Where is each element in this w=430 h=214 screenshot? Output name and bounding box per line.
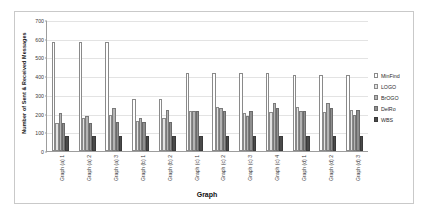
x-tick-label-text: Graph (c) 3 xyxy=(247,155,253,181)
bar-wbs xyxy=(65,136,68,151)
legend-swatch-brogo xyxy=(374,95,378,99)
x-tick-label: Graph (b) 1 xyxy=(126,154,153,194)
legend-swatch-wbs xyxy=(374,117,378,121)
bar-wbs xyxy=(199,136,202,151)
y-tick-label: 100 xyxy=(35,130,47,136)
x-tick-label: Graph (a) 2 xyxy=(73,154,100,194)
bar-group xyxy=(315,21,342,151)
legend-item: BrOGO xyxy=(374,92,428,103)
bar-group xyxy=(154,21,181,151)
bar-wbs xyxy=(253,136,256,151)
x-tick-label: Graph (c) 2 xyxy=(207,154,234,194)
chart-figure: Number of Sent & Received Messages 01002… xyxy=(0,0,430,214)
x-axis-tick-labels: Graph (a) 1Graph (a) 2Graph (a) 3Graph (… xyxy=(46,154,368,194)
x-tick-label-text: Graph (b) 2 xyxy=(167,155,173,181)
legend-label: WBS xyxy=(381,117,393,123)
bar-groups xyxy=(47,21,368,151)
x-tick-label: Graph (c) 1 xyxy=(180,154,207,194)
bar-group xyxy=(341,21,368,151)
y-axis-title: Number of Sent & Received Messages xyxy=(18,14,30,152)
bar-group xyxy=(127,21,154,151)
plot-area: 0100200300400500600700 xyxy=(46,21,368,152)
legend-label: MinFind xyxy=(381,73,400,79)
chart-legend: MinFindLOGOBrOGODelRoWBS xyxy=(374,70,428,125)
bar-wbs xyxy=(92,136,95,151)
x-tick-label: Graph (c) 4 xyxy=(261,154,288,194)
y-tick-label: 600 xyxy=(35,37,47,43)
y-tick-label: 400 xyxy=(35,74,47,80)
legend-swatch-minfind xyxy=(374,73,378,77)
y-tick-label: 300 xyxy=(35,93,47,99)
x-tick-label: Graph (a) 1 xyxy=(46,154,73,194)
x-tick-label-text: Graph (a) 3 xyxy=(113,155,119,181)
bar-group xyxy=(261,21,288,151)
x-tick-label-text: Graph (d) 2 xyxy=(328,155,334,181)
x-tick-label-text: Graph (a) 2 xyxy=(86,155,92,181)
bar-group xyxy=(288,21,315,151)
bar-wbs xyxy=(146,136,149,151)
x-tick-label: Graph (c) 3 xyxy=(234,154,261,194)
legend-item: DelRo xyxy=(374,103,428,114)
bar-wbs xyxy=(119,136,122,151)
bar-group xyxy=(208,21,235,151)
x-tick-label-text: Graph (c) 4 xyxy=(274,155,280,181)
bar-group xyxy=(101,21,128,151)
x-tick-label-text: Graph (c) 2 xyxy=(220,155,226,181)
legend-item: WBS xyxy=(374,114,428,125)
bar-group xyxy=(234,21,261,151)
bar-wbs xyxy=(279,136,282,151)
x-tick-label: Graph (d) 1 xyxy=(287,154,314,194)
y-tick-label: 200 xyxy=(35,112,47,118)
legend-label: DelRo xyxy=(381,106,396,112)
y-tick-label: 700 xyxy=(35,18,47,24)
bar-group xyxy=(47,21,74,151)
y-axis-title-text: Number of Sent & Received Messages xyxy=(21,32,27,133)
x-tick-label: Graph (a) 3 xyxy=(100,154,127,194)
bar-group xyxy=(181,21,208,151)
y-tick-label: 500 xyxy=(35,55,47,61)
legend-item: MinFind xyxy=(374,70,428,81)
x-tick-label-text: Graph (c) 1 xyxy=(194,155,200,181)
bar-wbs xyxy=(226,136,229,151)
bar-group xyxy=(74,21,101,151)
x-axis-title: Graph xyxy=(46,191,368,198)
bar-wbs xyxy=(172,136,175,151)
legend-swatch-logo xyxy=(374,84,378,88)
legend-label: LOGO xyxy=(381,84,396,90)
legend-item: LOGO xyxy=(374,81,428,92)
bar-wbs xyxy=(306,136,309,151)
x-tick-label-text: Graph (d) 1 xyxy=(301,155,307,181)
legend-swatch-delro xyxy=(374,106,378,110)
bar-wbs xyxy=(360,136,363,151)
x-tick-label: Graph (d) 3 xyxy=(341,154,368,194)
x-tick-label: Graph (d) 2 xyxy=(314,154,341,194)
x-tick-label-text: Graph (a) 1 xyxy=(59,155,65,181)
bar-wbs xyxy=(333,136,336,151)
legend-label: BrOGO xyxy=(381,95,399,101)
x-tick-label-text: Graph (d) 3 xyxy=(355,155,361,181)
x-tick-label: Graph (b) 2 xyxy=(153,154,180,194)
x-tick-label-text: Graph (b) 1 xyxy=(140,155,146,181)
